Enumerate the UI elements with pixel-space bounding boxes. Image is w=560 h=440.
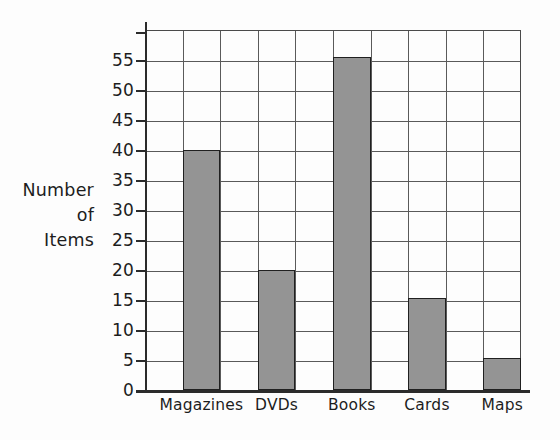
y-axis-tick-mark xyxy=(136,360,147,362)
gridline-vertical xyxy=(483,31,484,390)
gridline-vertical xyxy=(446,31,447,390)
y-axis-tick-mark xyxy=(136,270,147,272)
y-axis-tick-label: 30 xyxy=(96,200,134,220)
y-axis-tick-label: 10 xyxy=(96,320,134,340)
bar xyxy=(183,150,221,390)
bar-chart: Number of Items 0510152025303540455055 M… xyxy=(0,0,560,440)
y-axis-title-line-1: Number xyxy=(8,178,94,203)
x-axis-category-label: DVDs xyxy=(255,396,298,414)
y-axis-title-line-2: of xyxy=(8,203,94,228)
y-axis-tick-mark xyxy=(136,390,147,392)
bar xyxy=(258,270,296,390)
y-axis-tick-labels: 0510152025303540455055 xyxy=(96,0,134,440)
y-axis-tick-label: 40 xyxy=(96,140,134,160)
bar xyxy=(483,358,521,390)
x-axis-category-label: Books xyxy=(328,396,376,414)
y-axis-tick-mark xyxy=(136,60,147,62)
y-axis-tick-label: 55 xyxy=(96,50,134,70)
y-axis-tick-label: 5 xyxy=(96,350,134,370)
y-axis-tick-mark xyxy=(136,330,147,332)
y-axis-tick-mark xyxy=(136,300,147,302)
y-axis-tick-mark xyxy=(136,240,147,242)
y-axis-tick-mark xyxy=(136,90,147,92)
bar xyxy=(333,57,371,390)
y-axis-tick-label: 35 xyxy=(96,170,134,190)
y-axis-title: Number of Items xyxy=(8,178,94,253)
y-axis-tick-mark xyxy=(136,150,147,152)
y-axis-tick-mark xyxy=(136,120,147,122)
y-axis-line xyxy=(145,22,147,392)
bar xyxy=(408,298,446,390)
x-axis-line xyxy=(136,390,530,393)
gridline-vertical xyxy=(295,31,296,390)
y-axis-tick-label: 0 xyxy=(96,380,134,400)
x-axis-category-labels: MagazinesDVDsBooksCardsMaps xyxy=(145,396,521,426)
y-axis-tick-mark-top xyxy=(136,32,147,34)
y-axis-tick-mark xyxy=(136,210,147,212)
y-axis-tick-label: 50 xyxy=(96,80,134,100)
gridline-vertical xyxy=(371,31,372,390)
plot-area xyxy=(145,30,521,390)
y-axis-tick-label: 25 xyxy=(96,230,134,250)
y-axis-tick-label: 20 xyxy=(96,260,134,280)
y-axis-tick-label: 15 xyxy=(96,290,134,310)
x-axis-category-label: Cards xyxy=(404,396,449,414)
y-axis-title-line-3: Items xyxy=(8,228,94,253)
x-axis-category-label: Magazines xyxy=(159,396,243,414)
y-axis-tick-mark xyxy=(136,180,147,182)
gridline-vertical xyxy=(220,31,221,390)
y-axis-tick-label: 45 xyxy=(96,110,134,130)
x-axis-category-label: Maps xyxy=(481,396,523,414)
